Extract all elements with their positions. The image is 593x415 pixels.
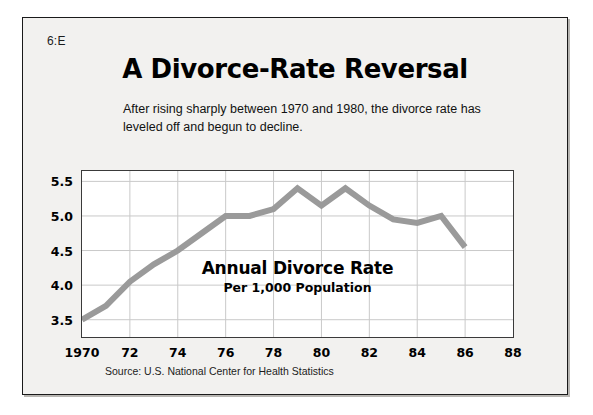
x-tick-label-80: 80 — [313, 345, 330, 360]
x-tick-label-72: 72 — [121, 345, 138, 360]
y-tick-label-4.5: 4.5 — [51, 243, 73, 258]
y-tick-label-3.5: 3.5 — [51, 312, 73, 327]
gridlines — [82, 181, 513, 319]
line-chart-svg — [82, 171, 513, 337]
y-tick-label-5.0: 5.0 — [51, 208, 73, 223]
x-tick-label-78: 78 — [265, 345, 282, 360]
page-code: 6:E — [47, 34, 66, 48]
page-title: A Divorce-Rate Reversal — [23, 54, 567, 84]
x-tick-label-74: 74 — [169, 345, 186, 360]
y-tick-label-5.5: 5.5 — [51, 174, 73, 189]
vertical-gridlines — [130, 171, 465, 337]
x-tick-label-1970: 1970 — [65, 345, 100, 360]
chart-subtitle: After rising sharply between 1970 and 19… — [123, 100, 483, 136]
plot-area: 3.54.04.55.05.5 1970727476788082848688 A… — [81, 170, 514, 338]
x-tick-label-76: 76 — [217, 345, 234, 360]
x-tick-label-84: 84 — [409, 345, 426, 360]
x-tick-label-88: 88 — [504, 345, 521, 360]
chart-card: 6:E A Divorce-Rate Reversal After rising… — [22, 17, 568, 395]
x-tick-label-82: 82 — [361, 345, 378, 360]
x-tick-label-86: 86 — [456, 345, 473, 360]
y-tick-label-4.0: 4.0 — [51, 278, 73, 293]
plot-frame — [81, 170, 514, 338]
source-note: Source: U.S. National Center for Health … — [105, 365, 334, 377]
